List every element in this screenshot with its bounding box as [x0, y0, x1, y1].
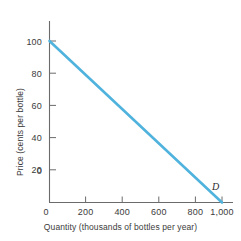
x-tick-label-1000: 1,000 [204, 207, 240, 217]
demand-curve-line [50, 41, 223, 203]
y-tick-label-80: 80 [14, 69, 42, 79]
x-tick-label-0: 0 [36, 207, 56, 217]
y-axis-ticks [50, 41, 57, 170]
demand-curve-chart: 0 20 40 60 80 100 0 200 400 600 800 1,00… [0, 0, 241, 241]
x-tick-label-200: 200 [71, 207, 101, 217]
x-tick-label-400: 400 [107, 207, 137, 217]
x-axis-ticks [86, 197, 222, 203]
y-tick-label-100: 100 [14, 37, 42, 47]
y-axis-title: Price (cents per bottle) [15, 88, 25, 176]
demand-curve-label: D [212, 181, 219, 192]
x-axis-title: Quantity (thousands of bottles per year) [0, 222, 241, 232]
x-tick-label-600: 600 [144, 207, 174, 217]
